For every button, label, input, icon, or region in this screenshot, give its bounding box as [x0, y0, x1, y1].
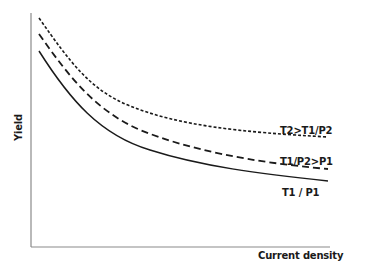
chart-canvas [0, 0, 372, 276]
curve-label-t1-p2-p1: T1/P2>P1 [280, 156, 333, 167]
curve-t1-p2-p1 [39, 34, 328, 169]
y-axis-title: Yield [13, 108, 24, 148]
curve-label-t1-p1: T1 / P1 [282, 187, 319, 198]
x-axis-title: Current density [258, 250, 343, 261]
curve-t2-t1-p2 [39, 18, 328, 137]
curve-label-t2-t1-p2: T2>T1/P2 [280, 125, 332, 136]
